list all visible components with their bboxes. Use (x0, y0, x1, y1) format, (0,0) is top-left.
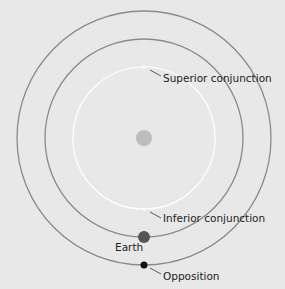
orbit-diagram: Superior conjunction Inferior conjunctio… (0, 0, 285, 289)
superior-leader-line (150, 70, 161, 76)
sun (136, 130, 152, 146)
opposition-leader-line (150, 268, 161, 274)
earth-label: Earth (115, 241, 143, 253)
inferior-conjunction-point (143, 208, 146, 211)
opposition-label: Opposition (163, 270, 220, 282)
opposition-planet (141, 262, 148, 269)
superior-conjunction-point (143, 66, 146, 69)
inferior-conjunction-label: Inferior conjunction (163, 212, 265, 224)
inferior-leader-line (150, 212, 161, 218)
superior-conjunction-label: Superior conjunction (163, 72, 272, 84)
